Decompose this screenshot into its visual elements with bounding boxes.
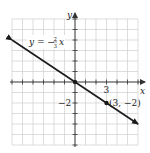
graph: y x 3 −2 (3, −2) y = − 2 3 x (0, 0, 150, 153)
y-tick-label-neg2: −2 (58, 98, 71, 108)
y-axis-label: y (66, 10, 73, 20)
svg-text:3: 3 (54, 43, 58, 49)
equation-label: y = − 2 3 x (27, 35, 65, 49)
x-axis-label: x (140, 86, 145, 96)
origin-point (73, 80, 77, 84)
x-tick-label-3: 3 (104, 85, 110, 95)
svg-text:2: 2 (54, 36, 58, 42)
svg-text:y = −: y = − (28, 37, 55, 47)
point-label: (3, −2) (109, 98, 141, 108)
svg-text:x: x (59, 37, 64, 47)
